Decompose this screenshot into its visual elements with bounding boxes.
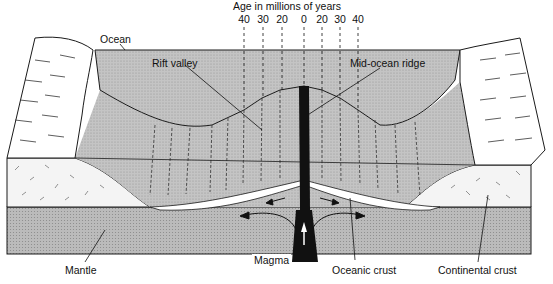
label-magma: Magma (252, 254, 291, 266)
age-tick-label: 40 (238, 13, 250, 25)
age-tick-label: 30 (257, 13, 269, 25)
continent-left-top (7, 37, 93, 158)
age-tick-label: 20 (316, 13, 328, 25)
ocean-water (75, 50, 475, 207)
age-axis-title: Age in millions of years (233, 0, 341, 12)
label-oceanic-crust: Oceanic crust (332, 264, 396, 276)
age-tick-label: 20 (276, 13, 288, 25)
label-mantle: Mantle (65, 264, 97, 276)
label-ocean: Ocean (100, 33, 131, 45)
seafloor-spreading-diagram (0, 0, 553, 284)
age-tick-label: 40 (352, 13, 364, 25)
label-rift-valley: Rift valley (152, 57, 198, 69)
continent-right-top (460, 38, 545, 165)
label-mid-ocean-ridge: Mid-ocean ridge (350, 57, 425, 69)
mantle-layer (7, 207, 531, 254)
age-tick-label: 30 (334, 13, 346, 25)
age-tick-label: 0 (301, 13, 307, 25)
label-continental-crust: Continental crust (438, 264, 517, 276)
